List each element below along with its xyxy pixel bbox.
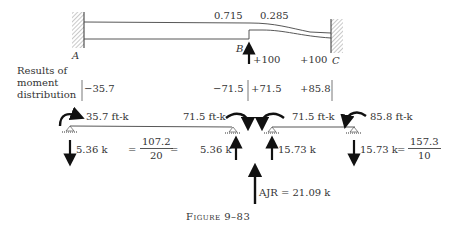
- moment-bc-right: 85.8 ft-k: [370, 112, 413, 122]
- result-c: +85.8: [300, 84, 331, 94]
- shear-ab-numerator: 107.2: [140, 137, 173, 149]
- shear-ab-denominator: 20: [150, 149, 163, 161]
- fem-c: +100: [300, 55, 327, 65]
- moment-arrow-ab-right: [226, 114, 248, 124]
- result-b-left: −71.5: [213, 84, 244, 94]
- shear-bc-denominator: 10: [418, 149, 431, 161]
- shear-ab-fraction: 107.2 20: [140, 137, 173, 161]
- result-b-right: +71.5: [251, 84, 282, 94]
- support-label-a: A: [72, 51, 79, 61]
- moment-arrow-bc-left: [262, 114, 284, 124]
- shear-ab-eq-suffix: =: [170, 145, 178, 155]
- fem-b: +100: [253, 55, 280, 65]
- joint-reaction-label: AJR = 21.09 k: [259, 188, 330, 198]
- support-label-b: B: [236, 44, 243, 54]
- moment-arrow-bc-right: [346, 113, 366, 122]
- reaction-ab-right: 5.36 k: [200, 145, 232, 155]
- reaction-bc-left: 15.73 k: [278, 145, 316, 155]
- results-label-line3: distribution: [17, 90, 76, 100]
- free-body-span-bc: [264, 127, 362, 133]
- free-body-span-ab: [62, 126, 241, 133]
- shear-bc-numerator: 157.3: [408, 137, 441, 149]
- fixed-support-c: [331, 19, 343, 53]
- results-label-line1: Results of: [17, 66, 67, 76]
- shear-bc-fraction: 157.3 10: [408, 137, 441, 161]
- distribution-factor-ab: 0.715: [214, 11, 243, 21]
- moment-ab-left: 35.7 ft-k: [86, 112, 129, 122]
- fixed-support-a: [72, 12, 84, 48]
- distribution-factor-bc: 0.285: [260, 11, 289, 21]
- beam-outline: [84, 22, 331, 39]
- moment-bc-left: 71.5 ft-k: [292, 112, 335, 122]
- figure-caption: Figure 9–83: [186, 212, 250, 222]
- moment-ab-right: 71.5 ft-k: [183, 112, 226, 122]
- moment-arrow-ab-left: [60, 114, 78, 126]
- reaction-bc-right: 15.73 k: [360, 145, 398, 155]
- shear-bc-eq-prefix: =: [397, 145, 405, 155]
- reaction-ab-left: 5.36 k: [76, 145, 108, 155]
- shear-ab-eq-prefix: =: [128, 145, 136, 155]
- result-a: −35.7: [84, 84, 115, 94]
- results-label-line2: moment: [17, 78, 58, 88]
- support-label-c: C: [332, 56, 340, 66]
